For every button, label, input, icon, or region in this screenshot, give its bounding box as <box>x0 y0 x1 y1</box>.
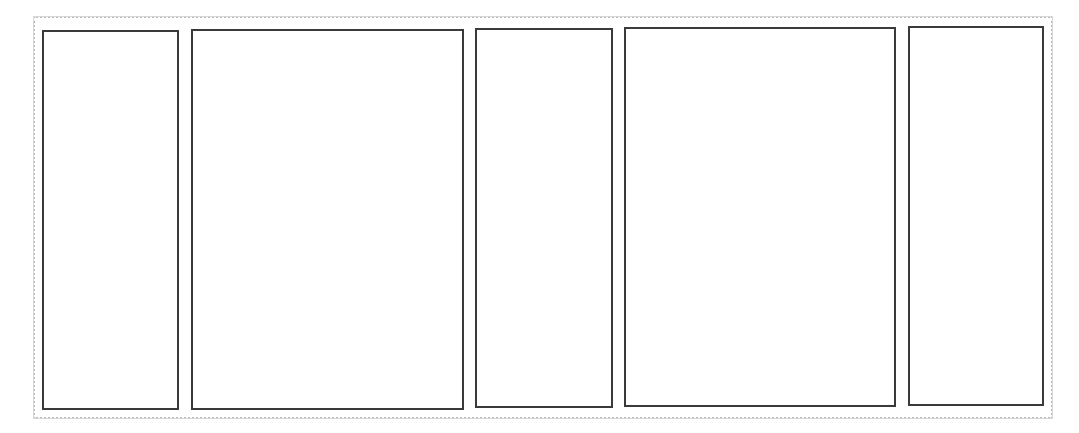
panel-3 <box>475 28 613 408</box>
panel-5 <box>908 26 1044 406</box>
panel-4 <box>624 27 896 407</box>
panel-2 <box>191 29 464 410</box>
panel-1 <box>42 30 179 410</box>
